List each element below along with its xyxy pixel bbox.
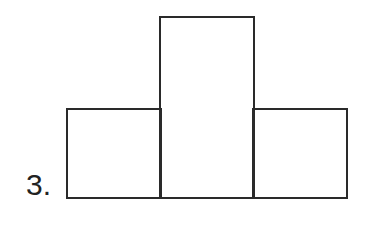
right-rectangle bbox=[252, 108, 348, 199]
left-rectangle bbox=[66, 108, 162, 199]
middle-rectangle bbox=[159, 16, 255, 199]
problem-number: 3. bbox=[26, 170, 51, 200]
